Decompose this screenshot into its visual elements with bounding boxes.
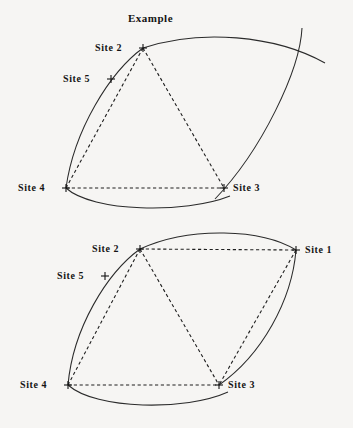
chord-chord-2-4 (66, 48, 143, 188)
site-label-site-4-top: Site 4 (18, 183, 45, 193)
arc-arc-right-upper (143, 37, 325, 63)
site-label-site-2-top: Site 2 (95, 43, 122, 53)
site-label-site-5-top: Site 5 (63, 74, 90, 84)
site-label-site-3-bottom: Site 3 (228, 380, 255, 390)
bottom-panel-geometry (64, 233, 300, 405)
top-panel-geometry (62, 28, 325, 208)
site-label-site-1-bottom: Site 1 (305, 245, 332, 255)
site-label-site-2-bottom: Site 2 (92, 244, 119, 254)
arc-arc-top-right (140, 233, 296, 250)
site-marker-site-5[interactable] (101, 272, 109, 280)
arc-arc-right-lower (215, 28, 302, 199)
diagram-svg (0, 0, 353, 428)
chord-chord-2-3 (140, 249, 219, 385)
site-marker-site-2[interactable] (139, 44, 147, 52)
figure-title: Example (128, 13, 173, 24)
site-marker-site-1[interactable] (292, 246, 300, 254)
site-label-site-5-bottom: Site 5 (57, 271, 84, 281)
site-marker-site-3[interactable] (215, 381, 223, 389)
site-label-site-3-top: Site 3 (233, 183, 260, 193)
chord-chord-2-1 (140, 249, 296, 250)
site-label-site-4-bottom: Site 4 (20, 380, 47, 390)
chord-chord-1-3 (219, 250, 296, 385)
arc-arc-bottom (68, 385, 228, 405)
arc-arc-bottom (66, 188, 230, 208)
figure-canvas: Example Site 2Site 5Site 4Site 3Site 2Si… (0, 0, 353, 428)
site-marker-site-2[interactable] (136, 245, 144, 253)
chord-chord-2-3 (143, 48, 224, 188)
